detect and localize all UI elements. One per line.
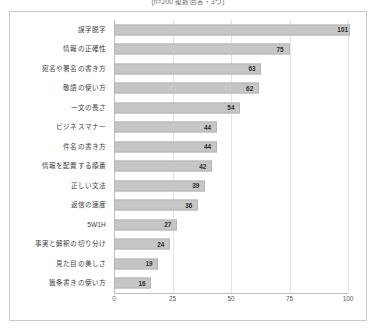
category-label: 正しい文法 [10,182,110,190]
bar-value-label: 27 [164,221,171,228]
bar [114,278,151,289]
bar-track: 42 [114,161,348,172]
bar-row: ビジネスマナー44 [10,118,368,138]
bar [114,24,350,35]
category-label: 情報を配置する順番 [10,162,110,170]
bar-row: 情報の正確性75 [10,40,368,60]
bar-track: 27 [114,219,348,230]
category-label: 5W1H [10,221,110,229]
bar-value-label: 19 [145,260,152,267]
bar-value-label: 44 [204,143,211,150]
bar [114,63,261,74]
bar-value-label: 36 [185,202,192,209]
category-label: 宛名や署名の書き方 [10,65,110,73]
plot-area: 誤字脱字101情報の正確性75宛名や署名の書き方63敬語の使い方62一文の長さ5… [10,12,366,320]
bar [114,83,259,94]
bar-row: 一文の長さ54 [10,98,368,118]
bar [114,44,290,55]
bar [114,122,217,133]
bar-value-label: 44 [204,124,211,131]
bar-track: 62 [114,83,348,94]
chart-note: (n=200 複数回答・3つ) [0,0,376,6]
bar-row: 正しい文法39 [10,176,368,196]
bar-track: 101 [114,24,348,35]
bar-track: 75 [114,44,348,55]
bar-value-label: 24 [157,241,164,248]
bar-value-label: 54 [227,104,234,111]
bar-track: 44 [114,141,348,152]
bar [114,141,217,152]
bar-track: 19 [114,258,348,269]
bar-row: 敬語の使い方62 [10,79,368,99]
chart-frame: 誤字脱字101情報の正確性75宛名や署名の書き方63敬語の使い方62一文の長さ5… [9,11,367,321]
x-axis-tick-labels: 0255075100 [114,295,348,309]
category-label: 情報の正確性 [10,45,110,53]
category-label: 件名の書き方 [10,143,110,151]
bar [114,161,212,172]
bar-row: 箇条書きの使い方16 [10,274,368,294]
chart-note-band: (n=200 複数回答・3つ) [0,0,376,11]
bar-series: 誤字脱字101情報の正確性75宛名や署名の書き方63敬語の使い方62一文の長さ5… [10,20,368,293]
x-tick-label: 25 [169,295,176,302]
bar-track: 24 [114,239,348,250]
bar-value-label: 62 [246,85,253,92]
bar-track: 44 [114,122,348,133]
category-label: 事実と解釈の切り分け [10,240,110,248]
bar-track: 63 [114,63,348,74]
x-tick-label: 75 [286,295,293,302]
bar-value-label: 42 [199,163,206,170]
bar-value-label: 16 [138,280,145,287]
x-tick-label: 0 [112,295,116,302]
category-label: 敬語の使い方 [10,84,110,92]
bar-row: 誤字脱字101 [10,20,368,40]
x-axis-line [114,293,348,294]
bar-track: 36 [114,200,348,211]
category-label: 見た目の美しさ [10,260,110,268]
bar-value-label: 39 [192,182,199,189]
category-label: 返信の速度 [10,201,110,209]
bar-track: 16 [114,278,348,289]
bar-row: 返信の速度36 [10,196,368,216]
x-tick-label: 100 [343,295,354,302]
category-label: 誤字脱字 [10,26,110,34]
bar-row: 宛名や署名の書き方63 [10,59,368,79]
bar-value-label: 63 [248,65,255,72]
category-label: ビジネスマナー [10,123,110,131]
chart-screenshot: (n=200 複数回答・3つ) 誤字脱字101情報の正確性75宛名や署名の書き方… [0,0,376,329]
bar-row: 見た目の美しさ19 [10,254,368,274]
x-tick-label: 50 [227,295,234,302]
bar-track: 39 [114,180,348,191]
bar [114,102,240,113]
bar-row: 5W1H27 [10,215,368,235]
bar-track: 54 [114,102,348,113]
category-label: 一文の長さ [10,104,110,112]
bar-row: 情報を配置する順番42 [10,157,368,177]
bar-value-label: 75 [277,46,284,53]
bar-row: 事実と解釈の切り分け24 [10,235,368,255]
category-label: 箇条書きの使い方 [10,279,110,287]
bar-value-label: 101 [337,26,348,33]
bar-row: 件名の書き方44 [10,137,368,157]
